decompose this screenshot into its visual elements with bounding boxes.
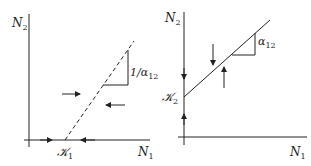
left-y-axis-label: N2 xyxy=(11,16,28,32)
right-intercept-label: 𝒦2 xyxy=(162,90,178,106)
right-panel: N2 N1 𝒦2 α12 xyxy=(162,11,307,161)
phase-plane-diagram: N2 N1 𝒦1 1/α12 N2 N1 𝒦2 α12 xyxy=(0,0,311,166)
right-slope-label: α12 xyxy=(258,35,276,50)
right-y-axis-label: N2 xyxy=(164,11,181,27)
right-isocline-solid xyxy=(184,20,270,97)
left-isocline-dashed xyxy=(65,41,134,140)
left-x-axis-label: N1 xyxy=(137,145,154,161)
left-intercept-label: 𝒦1 xyxy=(57,145,73,161)
left-panel: N2 N1 𝒦1 1/α12 xyxy=(11,14,158,161)
left-slope-label: 1/α12 xyxy=(130,66,158,81)
right-x-axis-label: N1 xyxy=(289,145,306,161)
